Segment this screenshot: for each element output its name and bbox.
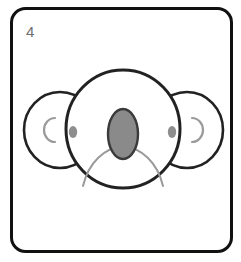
koala-card bbox=[0, 0, 241, 262]
left-eye bbox=[69, 126, 77, 138]
card-number-label: 4 bbox=[26, 24, 34, 40]
right-eye bbox=[168, 126, 176, 138]
nose bbox=[108, 109, 138, 159]
